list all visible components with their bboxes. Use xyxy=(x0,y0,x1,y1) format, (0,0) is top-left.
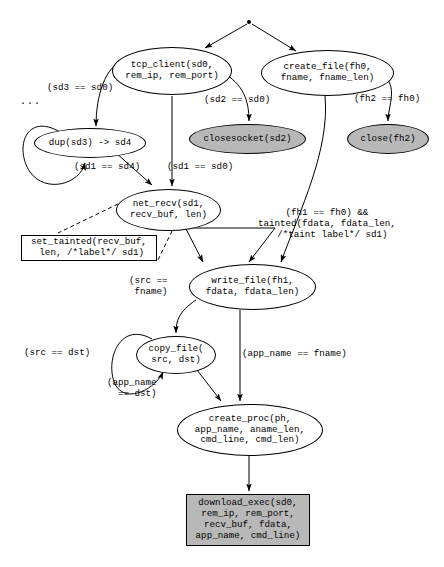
node-tcp-client[interactable]: tcp_client(sd0, rem_ip, rem_port) xyxy=(112,47,232,95)
behavior-graph-diagram: ... tcp_client(sd0, rem_ip, rem_port) cr… xyxy=(0,0,444,567)
node-net-recv[interactable]: net_recv(sd1, recv_buf, len) xyxy=(116,189,221,231)
edge-net-recv-write-file xyxy=(185,227,203,262)
node-dup[interactable]: dup(sd3) -> sd4 xyxy=(34,128,146,158)
edge-copy-file-create-proc xyxy=(197,370,221,401)
node-write-file[interactable]: write_file(fh1, fdata, fdata_len) xyxy=(189,264,316,310)
edge-label-sd1-eq-sd0: (sd1 == sd0) xyxy=(167,162,233,173)
ellipsis-marker: ... xyxy=(20,96,41,107)
node-copy-file[interactable]: copy_file( src, dst) xyxy=(136,336,216,374)
edge-label-sd1-eq-sd4: (sd1 == sd4) xyxy=(74,162,140,173)
edge-label-taint-condition: (fh1 == fh0) && tainted(fdata, fdata_len… xyxy=(258,208,396,241)
edge-root-tcp-client xyxy=(205,24,247,48)
node-download-exec[interactable]: download_exec(sd0, rem_ip, rem_port, rec… xyxy=(186,494,310,546)
edge-label-fh2-eq-fh0: (fh2 == fh0) xyxy=(354,94,420,105)
edge-label-src-eq-dst: (src == dst) xyxy=(24,348,90,359)
edge-net-recv-set-tainted-a xyxy=(58,204,118,233)
node-set-tainted[interactable]: set_tainted(recv_buf, len, /*label*/ sd1… xyxy=(21,235,157,261)
edge-label-sd3-eq-sd0: (sd3 == sd0) xyxy=(47,83,113,94)
edge-label-app-name-eq-dst: (app_name == dst) xyxy=(107,378,157,400)
edge-label-src-eq-fname: (src == fname) xyxy=(129,276,168,298)
root-node-dot xyxy=(247,20,251,24)
edge-net-recv-set-tainted-b xyxy=(157,231,172,262)
edge-label-sd2-eq-sd0: (sd2 == sd0) xyxy=(204,95,270,106)
node-close[interactable]: close(fh2) xyxy=(347,124,429,154)
node-create-file[interactable]: create_file(fh0, fname, fname_len) xyxy=(261,50,394,96)
edge-write-file-copy-file xyxy=(176,300,196,333)
edge-root-create-file xyxy=(252,24,296,51)
node-create-proc[interactable]: create_proc(ph, app_name, aname_len, cmd… xyxy=(177,404,323,456)
edge-label-app-name-eq-fname: (app_name == fname) xyxy=(242,349,347,360)
node-closesocket[interactable]: closesocket(sd2) xyxy=(189,124,306,154)
